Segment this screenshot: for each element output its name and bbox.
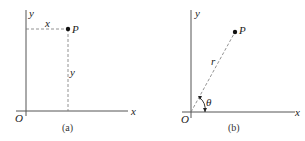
- panel-b-point-p: [233, 30, 237, 34]
- coordinate-diagram: y x P y x O (a) y P r θ x O (b): [0, 0, 305, 141]
- panel-b-radius-label: r: [211, 55, 216, 67]
- panel-a-x-dash-label: x: [44, 17, 50, 29]
- panel-a-point-label: P: [71, 23, 79, 35]
- panel-a-x-axis-label: x: [130, 105, 136, 117]
- panel-a-cartesian: y x P y x O (a): [15, 7, 136, 134]
- panel-b-origin-label: O: [181, 113, 189, 125]
- panel-b-caption: (b): [228, 122, 240, 134]
- panel-b-radius-dash: [191, 32, 235, 112]
- panel-a-y-axis-label: y: [28, 7, 34, 19]
- panel-a-y-dash-label: y: [69, 66, 75, 78]
- panel-b-y-axis-label: y: [194, 7, 200, 19]
- panel-a-origin-label: O: [15, 112, 23, 124]
- panel-a-point-p: [66, 27, 70, 31]
- panel-b-point-label: P: [238, 24, 246, 36]
- panel-b-polar: y P r θ x O (b): [181, 7, 300, 134]
- arrowhead-icon: [203, 108, 207, 112]
- panel-b-angle-label: θ: [206, 96, 212, 108]
- panel-b-x-axis-label: x: [294, 106, 300, 118]
- panel-a-caption: (a): [62, 122, 73, 134]
